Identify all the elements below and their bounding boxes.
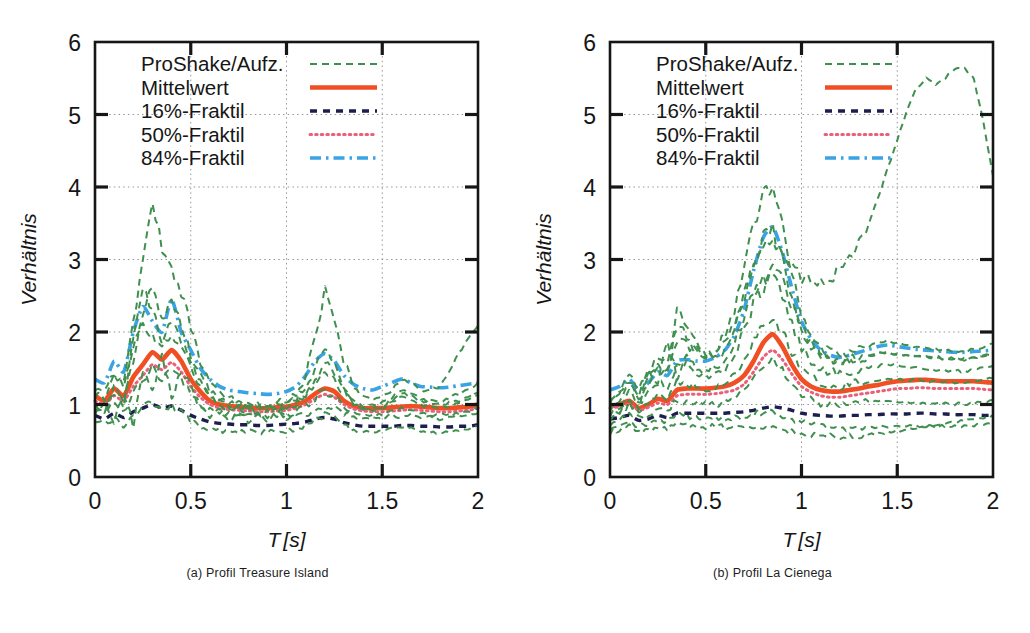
figure-container: 012345600.511.52VerhältnisT[s]ProShake/A… [0, 0, 1030, 633]
plot-area-b: 012345600.511.52VerhältnisT[s]ProShake/A… [515, 0, 1030, 560]
y-tick-label: 0 [68, 465, 81, 491]
x-tick-label: 0 [604, 488, 617, 514]
legend: ProShake/Aufz.Mittelwert16%-Fraktil50%-F… [656, 52, 892, 169]
series-line [610, 224, 993, 412]
legend-label: 50%-Fraktil [656, 123, 760, 146]
y-tick-label: 4 [583, 175, 596, 201]
legend-label: Mittelwert [656, 76, 744, 99]
y-tick-label: 5 [68, 103, 81, 129]
plot-area-a: 012345600.511.52VerhältnisT[s]ProShake/A… [0, 0, 515, 560]
x-tick-label: 1.5 [881, 488, 913, 514]
legend-label: 50%-Fraktil [141, 123, 245, 146]
x-tick-label: 0 [89, 488, 102, 514]
x-tick-label: 0.5 [175, 488, 207, 514]
chart-svg-b: 012345600.511.52VerhältnisT[s]ProShake/A… [515, 0, 1030, 560]
x-tick-label: 1 [795, 488, 808, 514]
axis-labels: 012345600.511.52VerhältnisT[s] [17, 30, 484, 551]
y-tick-label: 6 [583, 30, 596, 56]
legend-label: 16%-Fraktil [141, 99, 245, 122]
y-tick-label: 2 [583, 320, 596, 346]
x-tick-label: 2 [472, 488, 485, 514]
y-axis-title: Verhältnis [532, 213, 555, 306]
x-tick-label: 2 [987, 488, 1000, 514]
series-line [610, 227, 993, 390]
legend-label: 16%-Fraktil [656, 99, 760, 122]
panel-treasure-island: 012345600.511.52VerhältnisT[s]ProShake/A… [0, 0, 515, 633]
legend-label: 84%-Fraktil [656, 146, 760, 169]
x-tick-label: 1.5 [366, 488, 398, 514]
chart-svg-a: 012345600.511.52VerhältnisT[s]ProShake/A… [0, 0, 515, 560]
panel-caption-a: (a) Profil Treasure Island [0, 566, 515, 580]
y-tick-label: 4 [68, 175, 81, 201]
legend-label: Mittelwert [141, 76, 229, 99]
x-axis-title: T[s] [268, 528, 307, 551]
legend-label: 84%-Fraktil [141, 146, 245, 169]
x-tick-label: 1 [280, 488, 293, 514]
axis-labels: 012345600.511.52VerhältnisT[s] [532, 30, 999, 551]
y-tick-label: 3 [583, 248, 596, 274]
y-tick-label: 2 [68, 320, 81, 346]
panel-la-cienega: 012345600.511.52VerhältnisT[s]ProShake/A… [515, 0, 1030, 633]
x-axis-title: T[s] [783, 528, 822, 551]
y-tick-label: 5 [583, 103, 596, 129]
x-tick-label: 0.5 [690, 488, 722, 514]
y-tick-label: 1 [583, 393, 596, 419]
y-tick-label: 6 [68, 30, 81, 56]
y-tick-label: 1 [68, 393, 81, 419]
y-tick-label: 3 [68, 248, 81, 274]
y-axis-title: Verhältnis [17, 213, 40, 306]
y-tick-label: 0 [583, 465, 596, 491]
panel-caption-b: (b) Profil La Cienega [515, 566, 1030, 580]
legend: ProShake/Aufz.Mittelwert16%-Fraktil50%-F… [141, 52, 377, 169]
series-line [95, 299, 478, 394]
legend-label: ProShake/Aufz. [656, 52, 798, 75]
legend-label: ProShake/Aufz. [141, 52, 283, 75]
